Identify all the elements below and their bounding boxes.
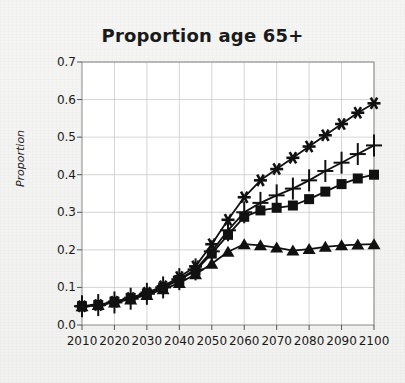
data-point-square bbox=[337, 179, 347, 189]
data-point-square bbox=[272, 203, 282, 213]
data-point-square bbox=[288, 201, 298, 211]
data-point-square bbox=[369, 170, 379, 180]
data-point-square bbox=[353, 173, 363, 183]
plot-area bbox=[0, 0, 405, 383]
data-point-square bbox=[304, 194, 314, 204]
data-point-square bbox=[207, 249, 217, 259]
data-point-square bbox=[223, 230, 233, 240]
data-point-square bbox=[255, 205, 265, 215]
data-point-square bbox=[239, 212, 249, 222]
data-point-square bbox=[320, 187, 330, 197]
chart-svg bbox=[0, 0, 405, 383]
